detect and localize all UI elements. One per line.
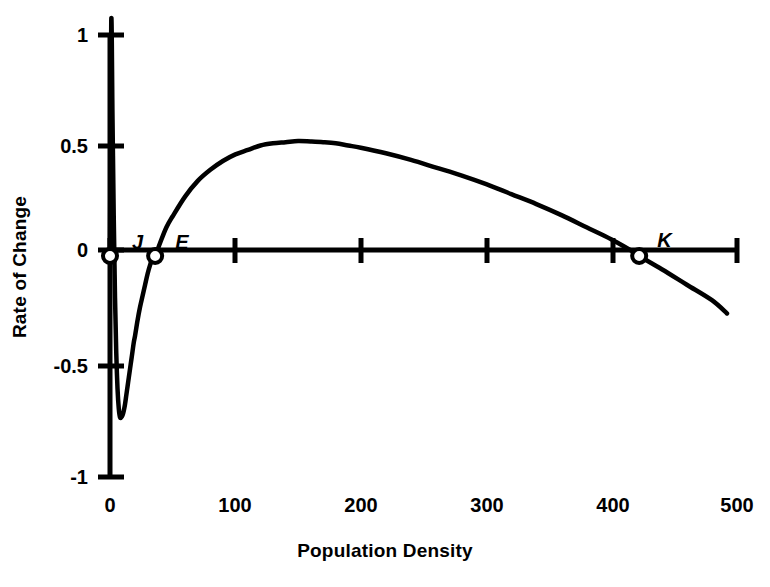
annotation-label-j: J	[132, 232, 143, 252]
x-tick-label-200: 200	[344, 495, 377, 515]
x-axis-title: Population Density	[297, 540, 473, 562]
x-tick-label-500: 500	[720, 495, 753, 515]
equilibrium-marker-k	[632, 249, 646, 263]
equilibrium-marker-j	[103, 249, 117, 263]
equilibrium-marker-e	[148, 249, 162, 263]
y-axis-title: Rate of Change	[9, 196, 31, 338]
x-tick-label-300: 300	[470, 495, 503, 515]
x-tick-label-0: 0	[104, 495, 115, 515]
y-tick-label-0point5: 0.5	[10, 136, 88, 156]
x-tick-label-100: 100	[218, 495, 251, 515]
annotation-label-e: E	[175, 232, 188, 252]
annotation-label-k: K	[657, 230, 671, 250]
y-tick-label-1: 1	[10, 25, 88, 45]
data-series-curve	[110, 18, 727, 418]
x-tick-label-400: 400	[596, 495, 629, 515]
chart-figure: 1 0.5 0 -0.5 -1 0 100 200 300 400 500 Po…	[0, 0, 770, 587]
y-tick-label-neg1: -1	[10, 467, 88, 487]
y-tick-label-neg0point5: -0.5	[10, 356, 88, 376]
